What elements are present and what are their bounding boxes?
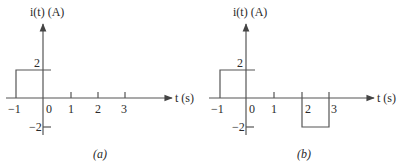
x-tick-label-neg1-a: −1	[8, 102, 21, 116]
x-tick-label-0-b: 0	[249, 102, 255, 116]
pulse-a	[16, 70, 51, 98]
x-tick-label-2-a: 2	[95, 102, 101, 116]
x-tick-label-2-b: 2	[305, 102, 311, 116]
y-tick-label-neg2-a: −2	[29, 120, 42, 134]
x-tick-label-3-b: 3	[331, 102, 337, 116]
x-axis-label-b: t (s)	[377, 91, 396, 105]
caption-a: (a)	[93, 147, 107, 161]
figure-canvas: i(t) (A) t (s) −1 0 1 2 3 2 −2 (a) i(t) …	[0, 0, 401, 165]
x-tick-label-1-a: 1	[68, 102, 74, 116]
y-tick-label-2-b: 2	[237, 56, 243, 70]
panel-b: i(t) (A) t (s) −1 0 1 2 3 2 −2 (b)	[209, 5, 396, 161]
x-tick-label-1-b: 1	[271, 102, 277, 116]
x-tick-label-0-a: 0	[46, 102, 52, 116]
x-tick-label-neg1-b: −1	[211, 102, 224, 116]
x-tick-label-3-a: 3	[121, 102, 127, 116]
y-tick-label-neg2-b: −2	[232, 120, 245, 134]
y-axis-label-b: i(t) (A)	[233, 5, 267, 19]
caption-b: (b)	[297, 147, 311, 161]
y-tick-label-2-a: 2	[34, 56, 40, 70]
pulse-positive-b	[220, 70, 255, 98]
x-axis-label-a: t (s)	[175, 91, 194, 105]
y-axis-label-a: i(t) (A)	[30, 5, 64, 19]
panel-a: i(t) (A) t (s) −1 0 1 2 3 2 −2 (a)	[6, 5, 194, 161]
